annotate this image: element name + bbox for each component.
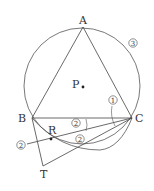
- circumcircle: [24, 28, 140, 144]
- label-R: R: [48, 124, 57, 137]
- svg-text:1: 1: [111, 97, 115, 105]
- marker-2-line: 2: [17, 141, 25, 150]
- marker-1: 1: [109, 96, 117, 105]
- label-T: T: [40, 168, 48, 181]
- svg-text:2: 2: [19, 142, 23, 150]
- segment-CT: [43, 118, 132, 166]
- segment-AB: [32, 27, 83, 118]
- marker-2-upper: 2: [72, 119, 80, 128]
- label-B: B: [18, 112, 26, 125]
- point-P: [82, 86, 85, 89]
- label-P: P: [72, 78, 80, 91]
- marker-3: 3: [129, 39, 137, 48]
- segment-AC: [83, 27, 132, 118]
- marker-2-lower: 2: [76, 135, 84, 144]
- svg-text:2: 2: [74, 120, 78, 128]
- label-A: A: [78, 14, 88, 27]
- svg-text:2: 2: [78, 136, 82, 144]
- point-R: [50, 138, 53, 141]
- label-C: C: [135, 112, 143, 125]
- geometry-figure: A B C P R T 3 1 2 2 2: [0, 0, 154, 191]
- svg-text:3: 3: [131, 40, 135, 48]
